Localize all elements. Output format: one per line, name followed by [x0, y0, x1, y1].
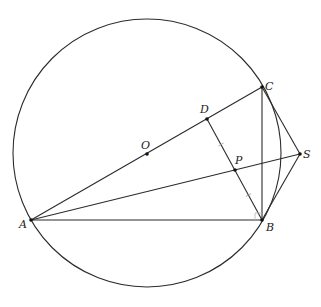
- label-a: A: [18, 218, 27, 231]
- segment-as: [31, 154, 300, 220]
- point-d: [205, 117, 209, 121]
- label-s: S: [303, 148, 311, 161]
- points: [29, 85, 302, 222]
- label-c: C: [265, 80, 274, 93]
- segments: [31, 87, 300, 220]
- label-b: B: [265, 221, 274, 234]
- point-o: [145, 152, 149, 156]
- point-s: [298, 152, 302, 156]
- point-p: [233, 168, 237, 172]
- label-d: D: [199, 103, 209, 116]
- point-a: [29, 218, 33, 222]
- label-o: O: [141, 139, 150, 152]
- point-b: [260, 218, 264, 222]
- point-c: [260, 85, 264, 89]
- label-p: P: [234, 154, 243, 167]
- geometry-diagram: ABCDOPS: [0, 0, 321, 307]
